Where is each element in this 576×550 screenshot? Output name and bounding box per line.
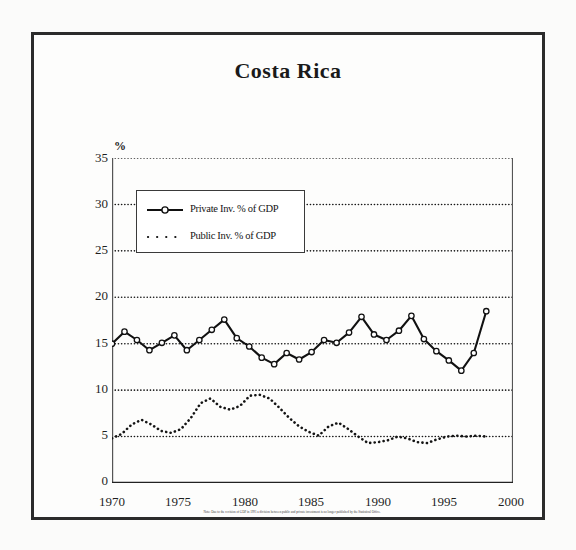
x-tick-2000: 2000 <box>488 494 534 510</box>
y-axis-unit-label: % <box>114 139 126 154</box>
x-tick-1980: 1980 <box>222 494 268 510</box>
y-tick-15: 15 <box>80 335 108 351</box>
plot-area: % 35 30 25 20 15 10 5 0 1970 1975 1980 1… <box>81 158 513 483</box>
y-tick-0: 0 <box>80 473 108 489</box>
page-title: Costa Rica <box>34 58 542 84</box>
legend-label-public: Public Inv. % of GDP <box>190 230 276 241</box>
y-tick-35: 35 <box>80 150 108 166</box>
x-tick-1970: 1970 <box>89 494 135 510</box>
legend-label-private: Private Inv. % of GDP <box>190 203 278 214</box>
legend-item-public: Public Inv. % of GDP <box>146 225 298 245</box>
y-tick-25: 25 <box>80 242 108 258</box>
dotted-line-icon <box>146 229 184 241</box>
scanned-page: Costa Rica % 35 30 25 20 15 10 5 0 1970 … <box>0 0 576 550</box>
y-tick-30: 30 <box>80 196 108 212</box>
x-tick-1995: 1995 <box>421 494 467 510</box>
y-tick-10: 10 <box>80 381 108 397</box>
x-tick-1985: 1985 <box>288 494 334 510</box>
legend-item-private: Private Inv. % of GDP <box>146 198 298 218</box>
x-tick-1990: 1990 <box>355 494 401 510</box>
y-tick-5: 5 <box>80 427 108 443</box>
x-tick-1975: 1975 <box>155 494 201 510</box>
chart-legend: Private Inv. % of GDP Public Inv. % of G… <box>136 190 305 253</box>
figure-frame: Costa Rica % 35 30 25 20 15 10 5 0 1970 … <box>31 32 545 520</box>
line-marker-icon <box>146 202 184 214</box>
figure-footnote: Note: Due to the revision of GDP in 1991… <box>112 510 472 514</box>
y-tick-20: 20 <box>80 288 108 304</box>
